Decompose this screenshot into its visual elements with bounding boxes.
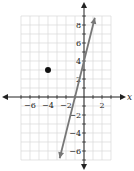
y-axis-down-arrow-icon (81, 164, 87, 170)
x-tick-label: −4 (42, 101, 54, 110)
plotted-point (45, 67, 51, 73)
x-axis-label: x (127, 92, 132, 102)
y-tick-label: −4 (69, 129, 81, 138)
y-tick-label: 4 (76, 57, 81, 66)
x-axis-right-arrow-icon (120, 94, 126, 100)
y-tick-label: 8 (76, 21, 81, 30)
coordinate-plane: −6−4−228642−2−4−6x (0, 0, 134, 171)
y-axis-up-arrow-icon (81, 2, 87, 8)
x-tick-label: −2 (60, 101, 72, 110)
x-axis-left-arrow-icon (2, 94, 8, 100)
x-tick-label: 2 (99, 101, 104, 110)
x-tick-label: −6 (24, 101, 36, 110)
y-tick-label: 6 (76, 39, 81, 48)
y-tick-label: −6 (69, 147, 81, 156)
